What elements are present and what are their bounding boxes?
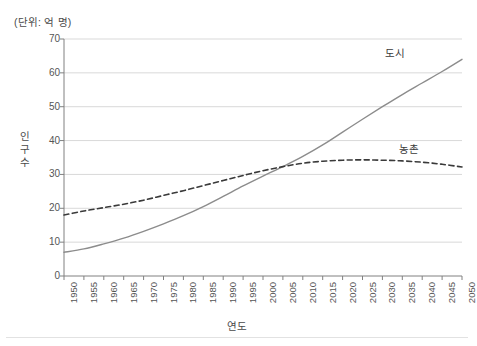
x-axis-title: 연도	[0, 318, 474, 333]
series-label-rural: 농촌	[399, 141, 419, 156]
bottom-divider	[6, 337, 468, 338]
series-line-rural	[64, 160, 462, 215]
series-label-urban: 도시	[385, 45, 405, 60]
